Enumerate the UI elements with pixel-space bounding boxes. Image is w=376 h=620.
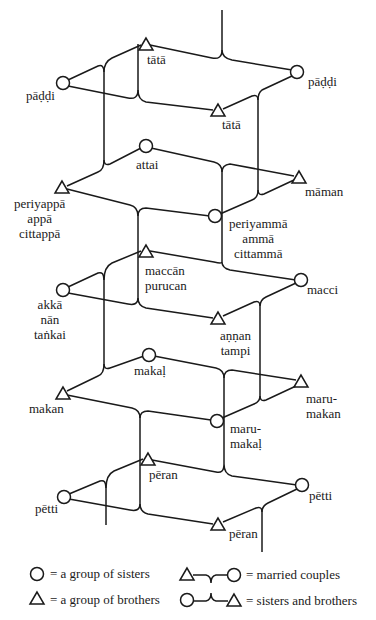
link-marumakal-sibling [140,411,211,420]
label-makan: makan [29,401,64,416]
row-children [56,349,308,428]
link-makan-sibling [67,395,140,418]
legend-married-circle-icon [228,569,241,582]
legend-siblings-text: = sisters and brothers [246,593,357,609]
triangle-annan [211,312,225,324]
triangle-tata-top [139,38,153,50]
descent-line-right-1 [258,100,294,195]
circle-macci [295,274,308,287]
legend-circle-icon [31,568,44,581]
label-tata-bottom: tātā [222,117,241,132]
label-maman: māman [305,184,343,199]
legend-sisters-text: = a group of sisters [50,566,150,582]
legend-sibling-circle-icon [181,594,194,607]
link-petti-right-married-b [223,508,262,523]
label-marumakal: maru- makaḷ [230,421,262,451]
label-periyappa: periyappā appā cittappā [14,196,65,241]
legend-married-connector-icon [193,575,228,583]
link-akka-married-b [104,251,141,280]
link-periyamma-married-maman [220,190,258,214]
row-parents [55,140,306,223]
label-macci: macci [307,282,338,297]
label-tata-top: tātā [147,52,166,67]
legend-brothers-text: = a group of brothers [50,592,160,608]
link-peran-bottom-sibling [140,504,213,524]
link-makan-married [67,364,104,391]
link-paddi-right-married [258,76,292,100]
link-attai-sibling [151,148,222,172]
circle-periyamma [209,210,222,223]
link-petti-left-married-b [106,459,143,488]
label-peran-top: pēran [149,467,178,482]
circle-attai [140,140,153,153]
link-tata-bottom-married [223,96,258,110]
circle-paddi-right [291,66,304,79]
link-marumakal-married [222,396,260,418]
legend-sibling-connector-icon [193,593,228,601]
row-grandchildren [58,453,309,552]
circle-paddi-left [57,77,70,90]
triangle-peran-top [141,453,155,465]
link-petti-left-sibling [69,499,140,510]
descent-line-left-1 [104,72,141,165]
link-periyappa-married-attai [67,160,104,186]
label-akka: akkā nān taṅkai [34,297,66,342]
circle-petti-right [296,479,309,492]
triangle-periyappa [55,181,69,193]
label-petti-left: pētti [35,501,58,516]
link-paddi-left-married [68,66,104,80]
circle-marumakal [211,415,224,428]
label-petti-right: pētti [309,488,332,503]
link-paddi-left-sibling [68,86,138,98]
legend-triangle-icon [30,592,44,604]
triangle-maman [292,171,306,183]
link-periyamma-sibling [138,208,210,216]
triangle-peran-bottom [211,518,225,530]
legend-sibling-triangle-icon [227,594,241,606]
legend-married-text: = married couples [246,567,340,583]
link-up-to-paddi-right [222,10,292,70]
triangle-makan [56,387,70,399]
triangle-tata-bottom [211,104,225,116]
label-paddi-right: pāḍḍi [308,74,337,89]
label-periyamma: periyammā ammā cittammā [229,216,287,261]
circle-makal [143,349,156,362]
link-petti-left-married-a [69,481,106,494]
label-paddi-left: pāḍḍi [26,88,55,103]
link-akka-married-a [68,273,104,287]
label-makal: makaḷ [134,363,166,378]
label-peran-bottom: pēran [229,526,258,541]
link-marumakan-married [260,386,296,401]
link-akka-sibling [68,293,138,304]
link-periyappa-sibling [67,189,138,216]
legend-married-triangle-icon [180,568,194,580]
label-marumakan: maru- makan [306,391,341,421]
label-annan: aṇṇan tampi [220,328,251,358]
circle-petti-left [58,491,71,504]
link-macci-married-a [260,283,296,306]
link-petti-right-married-a [262,489,297,512]
label-attai: attai [136,157,158,172]
triangle-marumakan [294,375,308,387]
link-annan-sibling [138,298,213,318]
circle-akka [57,284,70,297]
link-paddi-left-married-b [104,45,141,72]
link-macci-married-b [223,302,260,317]
row-grandparents [57,10,304,116]
label-maccan: maccān purucan [145,263,187,293]
